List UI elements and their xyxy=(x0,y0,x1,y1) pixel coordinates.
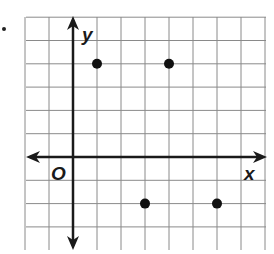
coordinate-plane: y x O xyxy=(0,0,274,254)
data-point xyxy=(92,59,102,69)
origin-label: O xyxy=(51,163,66,184)
x-axis-label: x xyxy=(243,163,256,184)
axes xyxy=(26,16,267,250)
data-point xyxy=(212,199,222,209)
data-point xyxy=(164,59,174,69)
data-point xyxy=(140,199,150,209)
y-axis-label: y xyxy=(81,24,94,45)
grid-lines xyxy=(25,17,266,250)
